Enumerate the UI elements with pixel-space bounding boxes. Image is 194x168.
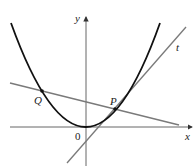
tangent-label: t <box>176 41 180 53</box>
point-p-dot <box>113 107 117 111</box>
parabola-curve <box>11 23 160 127</box>
origin-label: 0 <box>75 130 81 142</box>
point-q-dot <box>40 89 44 93</box>
point-q-label: Q <box>34 94 42 106</box>
point-p-label: P <box>109 95 117 107</box>
y-axis-label: y <box>74 12 80 24</box>
parabola-diagram: y x 0 Q P t <box>0 0 194 168</box>
x-axis-label: x <box>184 130 190 142</box>
